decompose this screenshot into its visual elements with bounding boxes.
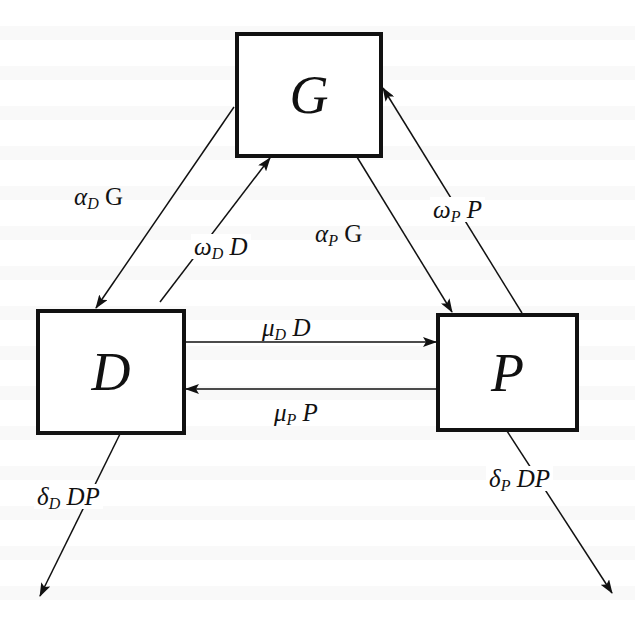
- edge-label-d-to-p: μD D: [259, 315, 313, 340]
- edge-label-g-to-d: αD G: [71, 184, 126, 209]
- rate-symbol: ω: [433, 196, 451, 223]
- rate-term: D: [292, 314, 310, 341]
- rate-subscript: D: [87, 195, 99, 212]
- rate-term: DP: [66, 483, 99, 510]
- node-d: D: [36, 309, 186, 435]
- node-g: G: [235, 32, 383, 158]
- edge-label-p-out: δP DP: [486, 466, 553, 491]
- rate-term: P: [303, 399, 318, 426]
- rate-symbol: μ: [274, 399, 287, 426]
- node-g-label: G: [290, 68, 329, 122]
- rate-term: G: [105, 183, 123, 210]
- rate-subscript: P: [287, 411, 297, 428]
- rate-term: D: [229, 233, 247, 260]
- rate-term: DP: [517, 465, 550, 492]
- rate-symbol: δ: [489, 465, 501, 492]
- rate-subscript: P: [451, 208, 461, 225]
- rate-symbol: δ: [37, 483, 49, 510]
- arrow-p-out: [507, 431, 612, 593]
- rate-term: G: [344, 220, 362, 247]
- arrow-d-to-g: [160, 158, 270, 302]
- rate-subscript: P: [328, 232, 338, 249]
- node-p-label: P: [491, 346, 524, 400]
- rate-term: P: [467, 196, 482, 223]
- rate-subscript: P: [501, 477, 511, 494]
- edge-label-d-to-g: ωD D: [191, 234, 251, 259]
- node-d-label: D: [92, 345, 131, 399]
- rate-symbol: ω: [194, 233, 212, 260]
- rate-symbol: α: [74, 183, 87, 210]
- arrow-d-out: [40, 434, 120, 596]
- arrow-g-to-p: [357, 157, 452, 312]
- edge-label-g-to-p: αP G: [312, 221, 365, 246]
- rate-subscript: D: [49, 495, 61, 512]
- edge-label-p-to-g: ωP P: [430, 197, 485, 222]
- rate-symbol: α: [315, 220, 328, 247]
- edge-label-p-to-d: μP P: [271, 400, 321, 425]
- edge-label-d-out: δD DP: [34, 484, 103, 509]
- node-p: P: [436, 313, 579, 432]
- rate-subscript: D: [212, 245, 224, 262]
- rate-subscript: D: [275, 326, 287, 343]
- rate-symbol: μ: [262, 314, 275, 341]
